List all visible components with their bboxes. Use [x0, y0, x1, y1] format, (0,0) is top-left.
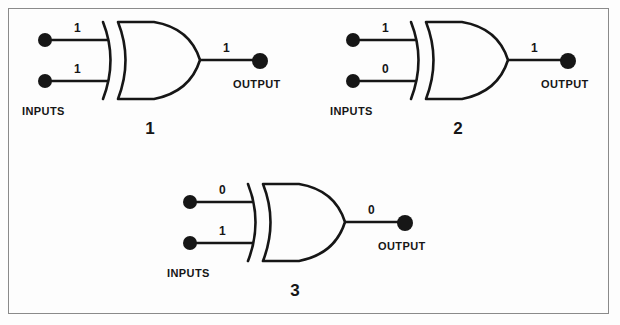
- input-a-value: 1: [74, 22, 81, 34]
- or-body-outline: [426, 22, 508, 99]
- output-value: 1: [531, 42, 538, 54]
- or-body-outline: [263, 184, 345, 261]
- output-terminal-dot: [397, 215, 413, 231]
- xor-back-arc: [411, 22, 419, 99]
- input-a-value: 0: [219, 184, 226, 196]
- output-caption: OUTPUT: [541, 79, 589, 90]
- output-value: 1: [223, 42, 230, 54]
- figure-canvas: 1 1 1 INPUTS OUTPUT 1 1 0 1 INPUTS OUTPU…: [0, 0, 620, 325]
- inputs-caption: INPUTS: [22, 106, 65, 117]
- inputs-caption: INPUTS: [330, 106, 373, 117]
- input-b-terminal-dot: [38, 74, 52, 88]
- xor-gate-3: 0 1 0 INPUTS OUTPUT 3: [175, 178, 435, 308]
- output-terminal-dot: [560, 53, 576, 69]
- input-b-value: 1: [74, 63, 81, 75]
- output-caption: OUTPUT: [378, 241, 426, 252]
- gate-number: 3: [275, 282, 315, 299]
- output-value: 0: [368, 204, 375, 216]
- gate-number: 1: [130, 120, 170, 137]
- gate-number: 2: [438, 120, 478, 137]
- output-caption: OUTPUT: [233, 79, 281, 90]
- input-b-value: 0: [382, 63, 389, 75]
- input-a-value: 1: [382, 22, 389, 34]
- input-b-terminal-dot: [346, 74, 360, 88]
- input-b-terminal-dot: [183, 236, 197, 250]
- xor-back-arc: [248, 184, 256, 261]
- inputs-caption: INPUTS: [167, 268, 210, 279]
- output-terminal-dot: [252, 53, 268, 69]
- xor-back-arc: [103, 22, 111, 99]
- input-b-value: 1: [219, 225, 226, 237]
- xor-gate-1: 1 1 1 INPUTS OUTPUT 1: [30, 16, 290, 146]
- input-a-terminal-dot: [38, 33, 52, 47]
- input-a-terminal-dot: [183, 195, 197, 209]
- xor-gate-2: 1 0 1 INPUTS OUTPUT 2: [338, 16, 598, 146]
- input-a-terminal-dot: [346, 33, 360, 47]
- or-body-outline: [118, 22, 200, 99]
